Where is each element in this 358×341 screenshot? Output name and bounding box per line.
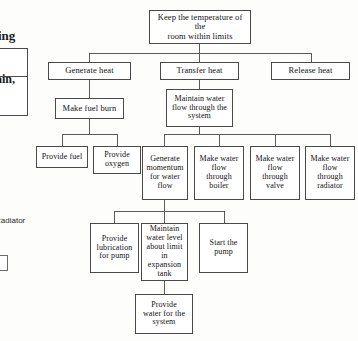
node-start-pump-label: Start thepump [202,239,245,257]
connector-to-maintain-water-level [164,211,165,223]
connector-level2-bus [89,53,311,54]
connector-to-generate-heat [89,53,90,62]
node-generate-heat[interactable]: Generate heat [48,62,131,80]
node-maintain-water-flow-label: Maintain waterflow through thesystem [169,95,230,122]
node-flow-through-radiator[interactable]: Make waterflowthroughradiator [305,146,355,200]
node-provide-fuel-label: Provide fuel [39,153,85,162]
node-flow-through-valve-label: Make waterflowthroughvalve [253,155,297,191]
connector-momentum-down [164,200,165,211]
connector-to-provide-oxygen [117,134,118,146]
connector-pump-bus [114,211,224,212]
connector-to-flow-boiler [219,134,220,146]
node-flow-through-valve[interactable]: Make waterflowthroughvalve [250,146,300,200]
node-provide-lubrication-label: Providelubricationfor pump [93,235,136,262]
connector-transfer-to-maintainflow [199,80,200,89]
node-release-heat[interactable]: Release heat [271,62,350,80]
node-maintain-water-level-label: Maintainwater levelabout limitin expansi… [144,225,185,279]
node-provide-water-label: Providewater for thesystem [138,301,190,328]
node-transfer-heat[interactable]: Transfer heat [160,62,239,80]
connector-to-flow-radiator [330,134,331,146]
connector-to-generate-momentum [164,134,165,146]
connector-to-provide-fuel [62,134,63,146]
node-flow-through-radiator-label: Make waterflowthroughradiator [308,155,352,191]
node-make-fuel-burn-label: Make fuel burn [58,104,121,114]
node-provide-oxygen-label: Provideoxygen [96,151,138,169]
connector-makefuel-down [89,119,90,134]
node-provide-oxygen[interactable]: Provideoxygen [93,146,141,174]
connector-to-provide-water [164,281,165,294]
node-release-heat-label: Release heat [274,66,347,76]
node-root-label: Keep the temperature of theroom within l… [152,13,248,42]
node-root[interactable]: Keep the temperature of theroom within l… [149,10,251,44]
connector-to-transfer-heat [199,53,200,62]
connector-root-down [199,44,200,53]
connector-generate-to-makefuel [89,80,90,98]
node-maintain-water-level[interactable]: Maintainwater levelabout limitin expansi… [141,223,188,281]
connector-to-release-heat [311,53,312,62]
margin-table-text-fragment: ain, [0,72,15,87]
node-provide-fuel[interactable]: Provide fuel [36,146,88,168]
connector-to-flow-valve [275,134,276,146]
node-generate-momentum-label: Generatemomentumfor waterflow [145,155,185,191]
node-provide-lubrication[interactable]: Providelubricationfor pump [90,223,139,273]
cut-off-legend-box [0,255,8,271]
node-transfer-heat-label: Transfer heat [163,66,236,76]
node-generate-momentum[interactable]: Generatemomentumfor waterflow [142,146,188,200]
connector-to-start-pump [224,211,225,223]
node-flow-through-boiler[interactable]: Make waterflowthroughboiler [194,146,244,200]
connector-to-provide-lubrication [114,211,115,223]
node-flow-through-boiler-label: Make waterflowthroughboiler [197,155,241,191]
node-generate-heat-label: Generate heat [51,66,128,76]
node-start-pump[interactable]: Start thepump [199,223,248,273]
node-make-fuel-burn[interactable]: Make fuel burn [55,98,124,119]
node-maintain-water-flow[interactable]: Maintain waterflow through thesystem [166,89,233,127]
margin-text-fragment-top: ing [0,28,15,44]
connector-maintainflow-down [199,127,200,134]
node-provide-water[interactable]: Providewater for thesystem [135,294,193,334]
scanned-page: ing ain, Radiator Keep the temperature o… [0,0,358,341]
connector-fuel-bus [62,134,117,135]
margin-label-radiator: Radiator [0,216,25,225]
connector-water-bus [164,134,330,135]
